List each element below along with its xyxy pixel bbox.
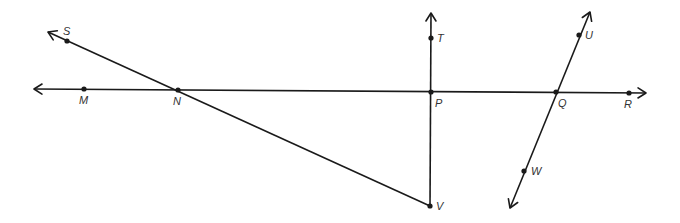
point-W [521,168,526,173]
ray-PT [430,13,431,206]
ray-NS [48,32,430,206]
point-label-U: U [585,29,593,41]
point-U [576,32,581,37]
point-label-T: T [437,32,445,44]
point-N [175,87,180,92]
line-UW [510,12,590,208]
point-P [428,89,433,94]
point-label-N: N [173,95,181,107]
point-label-Q: Q [558,97,567,109]
point-Q [553,89,558,94]
point-label-V: V [436,200,445,212]
point-label-W: W [531,165,543,177]
point-label-M: M [79,94,89,106]
point-S [64,38,69,43]
point-R [626,90,631,95]
point-V [427,203,432,208]
point-label-S: S [63,25,71,37]
geometry-diagram: SMNTPQRUWV [0,0,680,223]
point-M [81,86,86,91]
point-label-R: R [624,98,632,110]
point-T [428,35,433,40]
point-label-P: P [435,97,443,109]
lines-layer [34,12,646,208]
